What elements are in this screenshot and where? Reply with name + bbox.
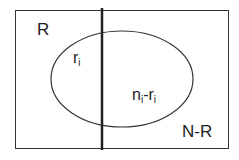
sample-ellipse <box>51 31 193 127</box>
ellipse-label-ri: ri <box>73 50 81 68</box>
ellipse-label-ni-ri: ni-ri <box>132 87 156 105</box>
region-label-n-minus-r: N-R <box>182 123 212 140</box>
region-label-r: R <box>37 21 49 38</box>
